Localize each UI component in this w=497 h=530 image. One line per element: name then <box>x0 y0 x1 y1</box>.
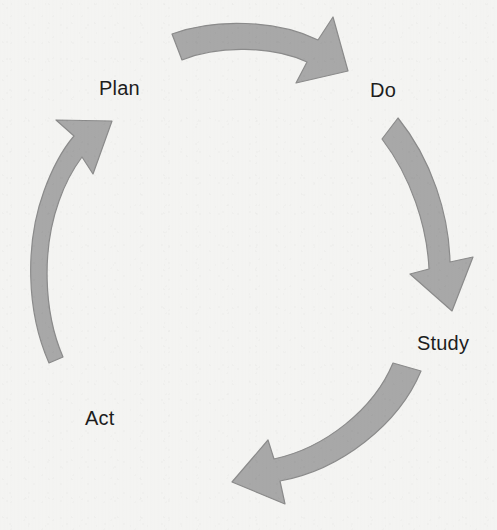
arrow-do-to-study <box>382 118 473 311</box>
cycle-label-act: Act <box>85 408 115 428</box>
arrow-study-to-act <box>232 363 421 504</box>
cycle-arrows-graphic <box>0 0 497 530</box>
arrow-act-to-plan <box>31 120 112 363</box>
pdsa-cycle-diagram: Plan Do Study Act <box>0 0 497 530</box>
cycle-label-plan: Plan <box>99 78 140 98</box>
arrow-plan-to-do <box>172 17 348 83</box>
cycle-label-study: Study <box>417 333 469 353</box>
cycle-label-do: Do <box>370 80 396 100</box>
